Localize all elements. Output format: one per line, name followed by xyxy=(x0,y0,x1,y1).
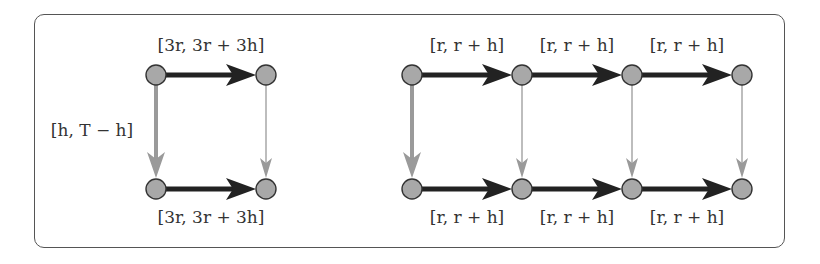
node xyxy=(402,65,422,85)
left-vertical-edge-strong xyxy=(147,85,165,178)
right-top-label: [r, r + h] xyxy=(540,35,614,55)
node xyxy=(622,65,642,85)
node xyxy=(512,65,532,85)
left-bottom-edge xyxy=(166,178,256,200)
node xyxy=(512,179,532,199)
node xyxy=(622,179,642,199)
right-diagram: [r, r + h] [r, r + h] [r, r + h] [r, r +… xyxy=(402,35,752,227)
left-bottom-label: [3r, 3r + 3h] xyxy=(158,207,265,227)
node xyxy=(256,65,276,85)
right-bottom-edges xyxy=(422,178,732,200)
right-top-label: [r, r + h] xyxy=(650,35,724,55)
left-side-label: [h, T − h] xyxy=(51,120,133,140)
left-vertical-edge-weak xyxy=(260,85,272,178)
node xyxy=(256,179,276,199)
node xyxy=(402,179,422,199)
left-top-label: [3r, 3r + 3h] xyxy=(158,35,265,55)
right-bottom-label: [r, r + h] xyxy=(650,207,724,227)
right-bottom-label: [r, r + h] xyxy=(430,207,504,227)
right-vertical-edges xyxy=(403,85,748,178)
diagram-canvas: [3r, 3r + 3h] [3r, 3r + 3h] [h, T − h] xyxy=(0,0,820,264)
left-diagram: [3r, 3r + 3h] [3r, 3r + 3h] [h, T − h] xyxy=(51,35,276,227)
node xyxy=(732,65,752,85)
right-top-label: [r, r + h] xyxy=(430,35,504,55)
node xyxy=(146,65,166,85)
node xyxy=(732,179,752,199)
node xyxy=(146,179,166,199)
right-top-edges xyxy=(422,64,732,86)
right-bottom-label: [r, r + h] xyxy=(540,207,614,227)
left-top-edge xyxy=(166,64,256,86)
diagram-svg: [3r, 3r + 3h] [3r, 3r + 3h] [h, T − h] xyxy=(0,0,820,264)
